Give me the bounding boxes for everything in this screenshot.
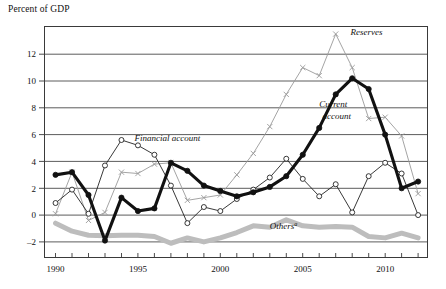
data-point <box>86 218 91 223</box>
data-point <box>284 156 289 161</box>
data-point <box>350 210 355 215</box>
others-footnote-marker: a <box>294 220 297 227</box>
data-point <box>251 151 256 156</box>
data-point <box>86 211 91 216</box>
data-point <box>185 221 190 226</box>
x-tick-label: 1995 <box>129 264 148 274</box>
data-point <box>201 183 206 188</box>
data-point <box>234 194 239 199</box>
figure-container: Percent of GDP –202468101219901995200020… <box>0 0 446 289</box>
data-point <box>300 65 305 70</box>
data-point <box>399 186 404 191</box>
data-point <box>267 175 272 180</box>
data-point <box>383 132 388 137</box>
data-point <box>152 206 157 211</box>
data-point <box>333 31 338 36</box>
data-point <box>201 205 206 210</box>
y-tick-label: 10 <box>27 76 37 86</box>
series-line <box>56 34 419 220</box>
data-point <box>416 191 421 196</box>
data-point <box>284 174 289 179</box>
data-point <box>416 213 421 218</box>
data-point <box>86 192 91 197</box>
data-point <box>333 92 338 97</box>
annotation-reserves: Reserves <box>350 27 383 37</box>
y-axis-title: Percent of GDP <box>8 4 70 14</box>
data-point <box>135 143 140 148</box>
data-point <box>53 172 58 177</box>
annotation-others: Othersa <box>270 220 298 231</box>
data-point <box>399 133 404 138</box>
series-line <box>56 140 419 223</box>
x-tick-label: 2005 <box>294 264 313 274</box>
annotation-financial-account: Financial account <box>134 133 201 143</box>
series-current-account <box>53 76 421 243</box>
data-point <box>102 163 107 168</box>
data-point <box>69 170 74 175</box>
y-tick-label: 0 <box>32 210 37 220</box>
data-point <box>119 137 124 142</box>
plot-frame <box>45 27 428 258</box>
data-point <box>267 124 272 129</box>
data-point <box>135 208 140 213</box>
data-point <box>185 168 190 173</box>
y-tick-label: 8 <box>32 103 37 113</box>
y-tick-label: 6 <box>32 130 37 140</box>
annotation-current-account-2: account <box>323 111 352 121</box>
data-point <box>251 190 256 195</box>
data-point <box>383 160 388 165</box>
data-point <box>317 125 322 130</box>
x-tick-label: 2000 <box>211 264 230 274</box>
data-point <box>317 73 322 78</box>
data-point <box>218 188 223 193</box>
chart-svg: –202468101219901995200020052010Financial… <box>4 22 440 280</box>
x-tick-label: 2010 <box>376 264 395 274</box>
y-tick-label: 2 <box>32 184 37 194</box>
series-financial-account <box>53 137 421 225</box>
data-point <box>53 211 58 216</box>
data-point <box>366 174 371 179</box>
annotation-current-account: Current <box>319 99 348 109</box>
data-point <box>168 160 173 165</box>
data-point <box>267 184 272 189</box>
data-point <box>152 152 157 157</box>
y-tick-label: 12 <box>27 49 36 59</box>
data-point <box>284 92 289 97</box>
y-tick-label: –2 <box>26 237 36 247</box>
plot-area: –202468101219901995200020052010Financial… <box>4 22 440 280</box>
data-point <box>416 179 421 184</box>
data-point <box>102 238 107 243</box>
data-point <box>317 194 322 199</box>
data-point <box>218 209 223 214</box>
data-point <box>333 182 338 187</box>
data-point <box>70 187 75 192</box>
data-point <box>119 195 124 200</box>
y-tick-label: 4 <box>32 157 37 167</box>
data-point <box>350 65 355 70</box>
data-point <box>234 172 239 177</box>
data-point <box>350 76 355 81</box>
data-point <box>366 86 371 91</box>
data-point <box>53 201 58 206</box>
data-point <box>300 176 305 181</box>
data-point <box>168 183 173 188</box>
data-point <box>102 210 107 215</box>
data-point <box>399 171 404 176</box>
data-point <box>300 152 305 157</box>
x-tick-label: 1990 <box>47 264 66 274</box>
